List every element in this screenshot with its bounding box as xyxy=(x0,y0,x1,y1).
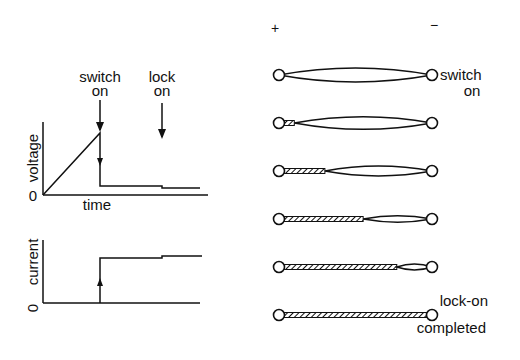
current-trace xyxy=(100,256,202,303)
minus-label: − xyxy=(430,17,438,33)
anode-terminal-icon xyxy=(274,214,285,225)
anode-terminal-icon xyxy=(274,70,285,81)
anode-terminal-icon xyxy=(274,166,285,177)
filament-stage xyxy=(274,262,438,273)
cathode-terminal-icon xyxy=(427,214,438,225)
current-origin-label: 0 xyxy=(24,304,41,312)
filament-stage xyxy=(274,68,438,82)
cathode-terminal-icon xyxy=(427,166,438,177)
anode-terminal-icon xyxy=(274,118,285,129)
voltage-graph xyxy=(43,122,208,195)
switch-on-label-2: on xyxy=(92,82,109,99)
gap-lens xyxy=(294,117,432,130)
current-axis-label: current xyxy=(24,238,41,286)
voltage-trace xyxy=(43,133,200,195)
filament-stages xyxy=(274,68,438,321)
voltage-axis-label: voltage xyxy=(24,134,41,182)
arrowhead-icon xyxy=(158,129,166,139)
arrowhead-icon xyxy=(96,122,104,132)
lock-on-completed-label: lock-on xyxy=(440,292,488,309)
filament-stage xyxy=(274,117,438,130)
gap-lens xyxy=(325,166,432,176)
filament-bar xyxy=(279,313,432,318)
plus-label: + xyxy=(271,20,279,36)
gap-lens xyxy=(279,68,432,82)
arrowhead-icon xyxy=(97,278,103,286)
filament-bar xyxy=(279,265,397,270)
gap-lens xyxy=(363,216,432,222)
cathode-terminal-icon xyxy=(427,118,438,129)
switch-on-stage-label-2: on xyxy=(464,82,481,99)
lock-on-label-2: on xyxy=(154,82,171,99)
arrowhead-icon xyxy=(97,158,103,166)
switch-on-stage-label: switch xyxy=(440,66,482,83)
current-graph xyxy=(43,240,202,303)
cathode-terminal-icon xyxy=(427,70,438,81)
switch-on-annotation: switch on xyxy=(79,68,121,132)
lock-on-annotation: lock on xyxy=(149,68,176,139)
voltage-origin-label: 0 xyxy=(29,187,37,204)
filament-stage xyxy=(274,166,438,177)
cathode-terminal-icon xyxy=(427,262,438,273)
time-axis-label: time xyxy=(83,196,111,213)
filament-stage xyxy=(274,214,438,225)
anode-terminal-icon xyxy=(274,310,285,321)
lock-on-diagram: switch on lock on voltage 0 time current… xyxy=(0,0,520,360)
filament-stage xyxy=(274,310,438,321)
filament-bar xyxy=(279,169,325,174)
filament-bar xyxy=(279,217,363,222)
anode-terminal-icon xyxy=(274,262,285,273)
lock-on-completed-label-2: completed xyxy=(417,319,486,336)
